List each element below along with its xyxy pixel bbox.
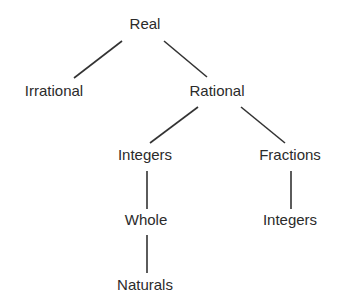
node-integers-under-fractions: Integers bbox=[263, 212, 317, 228]
edge-rational-to-integers bbox=[150, 107, 198, 143]
number-classification-tree: Real Irrational Rational Integers Fracti… bbox=[0, 0, 347, 302]
edge-real-to-irrational bbox=[74, 41, 122, 78]
node-fractions: Fractions bbox=[259, 147, 321, 163]
edge-rational-to-fractions bbox=[241, 107, 285, 143]
edge-real-to-rational bbox=[164, 41, 207, 77]
node-whole: Whole bbox=[125, 212, 168, 228]
node-naturals: Naturals bbox=[117, 277, 173, 293]
node-rational: Rational bbox=[189, 83, 244, 99]
node-real: Real bbox=[130, 16, 161, 32]
node-integers: Integers bbox=[118, 147, 172, 163]
node-irrational: Irrational bbox=[25, 83, 83, 99]
